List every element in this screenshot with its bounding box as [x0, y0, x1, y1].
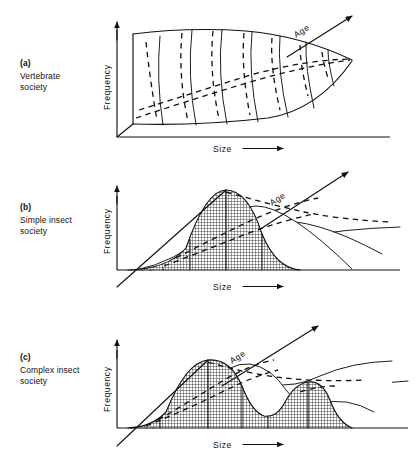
- panel-b-age-label: Age: [268, 190, 288, 208]
- panel-c-caption: (c) Complex insect society: [20, 352, 116, 388]
- panel-a-letter: (a): [20, 58, 116, 70]
- panel-c-caption-line-2: society: [20, 376, 116, 388]
- panel-b-simple-insect-society: (b) Simple insect society: [0, 150, 420, 302]
- panel-c-age-label: Age: [228, 348, 248, 365]
- panel-a-caption-line-2: society: [20, 82, 116, 94]
- panel-c-complex-insect-society: (c) Complex insect society: [0, 300, 420, 452]
- panel-a-caption-line-1: Vertebrate: [20, 71, 116, 83]
- panel-b-plot: Age Frequency Size: [0, 150, 420, 302]
- panel-c-caption-line-1: Complex insect: [20, 365, 116, 377]
- panel-b-y-axis-label: Frequency: [102, 208, 112, 254]
- panel-b-x-axis-label: Size: [213, 282, 232, 292]
- panel-c-letter: (c): [20, 352, 116, 364]
- panel-c-x-axis-label: Size: [213, 440, 232, 450]
- panel-a-vertebrate-society: (a) Vertebrate society: [0, 0, 420, 152]
- figure-size-frequency-age: (a) Vertebrate society: [0, 0, 420, 457]
- panel-a-caption: (a) Vertebrate society: [20, 58, 116, 94]
